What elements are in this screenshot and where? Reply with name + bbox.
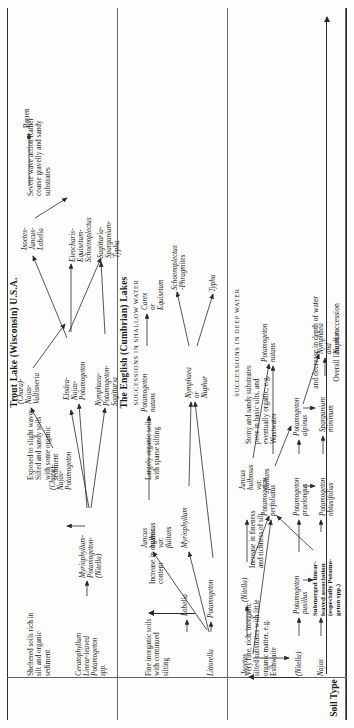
succession-caption-depth: and decrease in depth of water — [311, 9, 320, 676]
table-top-rule — [7, 8, 8, 720]
arrow-layer-trout — [9, 9, 117, 676]
panel-divider-2 — [227, 8, 228, 720]
panel-divider-3 — [345, 8, 346, 720]
overall-succession-arrow — [326, 17, 327, 674]
overall-succession-block: and decrease in depth of water Overall l… — [311, 9, 345, 676]
arrow-layer-shallow — [119, 9, 227, 676]
stub-column: Soil Type — [9, 678, 345, 718]
panel-trout-lake: Trout Lake (Wisconsin) U.S.A. ✓ Sheltere… — [9, 9, 117, 676]
silt-fineness-gradient-arrow — [249, 677, 299, 678]
succession-caption-overall: Overall line of succession — [332, 9, 341, 676]
soil-type-label: Soil Type — [329, 678, 340, 718]
hydrosere-succession-figure: Soil Type Trout Lake (Wisconsin) U.S.A. … — [0, 0, 354, 728]
table-bottom-rule — [346, 8, 347, 720]
figure-page: Soil Type Trout Lake (Wisconsin) U.S.A. … — [0, 0, 354, 728]
panel-shallow-water: The English (Cumbrian) Lakes SUCCESSIONS… — [119, 9, 227, 676]
rotated-figure-container: Soil Type Trout Lake (Wisconsin) U.S.A. … — [0, 0, 354, 728]
